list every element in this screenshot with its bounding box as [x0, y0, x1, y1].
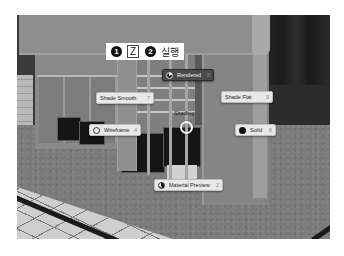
pie-item-rendered[interactable]: Rendered 8	[162, 69, 214, 81]
keycap-z: Z	[127, 45, 139, 58]
wireframe-sphere-icon	[93, 127, 100, 134]
building-pillar	[117, 53, 137, 171]
window-sill	[37, 75, 121, 77]
pie-item-solid[interactable]: Solid 6	[235, 124, 276, 136]
building-roof-corner	[252, 15, 270, 55]
step-1-label: 1 Z	[106, 43, 144, 60]
step-number-badge: 1	[111, 46, 122, 57]
step-text: 실행	[161, 44, 179, 59]
pie-item-shade-flat[interactable]: Shade Flat 9	[221, 91, 273, 103]
furniture-block	[57, 117, 81, 141]
step-2-label: 2 실행	[140, 43, 184, 60]
material-sphere-icon	[158, 182, 165, 189]
pie-item-wireframe[interactable]: Wireframe 4	[89, 124, 141, 136]
pie-item-shade-smooth[interactable]: Shade Smooth 7	[96, 92, 154, 104]
pie-item-material-preview[interactable]: Material Preview 2	[154, 179, 223, 191]
step-number-badge: 2	[145, 46, 156, 57]
rendered-sphere-icon	[166, 72, 173, 79]
pie-menu-title: Shading	[174, 110, 194, 116]
pie-center-ring	[180, 121, 193, 134]
solid-sphere-icon	[239, 127, 246, 134]
door-frame	[147, 55, 150, 175]
